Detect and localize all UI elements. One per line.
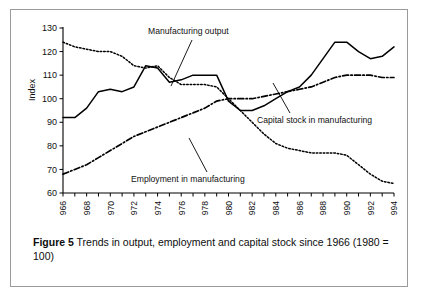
svg-text:1988: 1988	[318, 201, 328, 215]
svg-text:130: 130	[42, 23, 57, 33]
x-axis-tick-labels: 1966196819701972197419761978198019821984…	[58, 201, 399, 215]
svg-text:1972: 1972	[129, 201, 139, 215]
svg-text:1990: 1990	[342, 201, 352, 215]
svg-text:1976: 1976	[177, 201, 187, 215]
svg-text:1994: 1994	[389, 201, 399, 215]
svg-text:120: 120	[42, 47, 57, 57]
series-line	[63, 42, 394, 183]
chart-plot-area: 60708090100110120130 1966196819701972197…	[11, 10, 409, 215]
annotation-employment: Employment in manufacturing	[131, 174, 245, 184]
svg-text:1966: 1966	[58, 201, 68, 215]
svg-text:1970: 1970	[106, 201, 116, 215]
svg-text:1982: 1982	[247, 201, 257, 215]
svg-text:70: 70	[47, 165, 57, 175]
svg-text:90: 90	[47, 117, 57, 127]
svg-text:1978: 1978	[200, 201, 210, 215]
svg-text:1992: 1992	[366, 201, 376, 215]
svg-text:110: 110	[43, 70, 57, 80]
svg-text:1980: 1980	[224, 201, 234, 215]
y-axis-tick-labels: 60708090100110120130	[42, 23, 57, 198]
chart-axes	[60, 27, 395, 197]
svg-text:80: 80	[47, 141, 57, 151]
svg-text:1974: 1974	[153, 201, 163, 215]
svg-text:1986: 1986	[295, 201, 305, 215]
annotation-leader-lines	[171, 40, 290, 172]
svg-text:100: 100	[42, 94, 57, 104]
trends-line-chart: 60708090100110120130 1966196819701972197…	[11, 10, 409, 215]
figure-frame: 60708090100110120130 1966196819701972197…	[10, 9, 408, 287]
svg-text:60: 60	[47, 188, 57, 198]
series-line	[63, 42, 394, 117]
annotation-manufacturing-output: Manufacturing output	[148, 26, 229, 36]
svg-text:1968: 1968	[82, 201, 92, 215]
svg-text:1984: 1984	[271, 201, 281, 215]
annotation-capital-stock: Capital stock in manufacturing	[257, 115, 372, 125]
figure-caption-text: Trends in output, employment and capital…	[33, 236, 389, 262]
y-axis-title: Index	[27, 87, 37, 101]
figure-caption: Figure 5 Trends in output, employment an…	[33, 235, 393, 263]
chart-series-group	[63, 42, 394, 183]
figure-caption-label: Figure 5	[33, 236, 74, 248]
